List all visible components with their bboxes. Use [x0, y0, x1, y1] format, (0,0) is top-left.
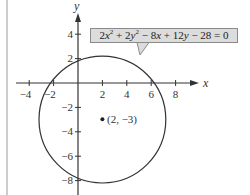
- x-tick-label: 6: [148, 88, 154, 100]
- equation-part: − 8: [139, 29, 156, 41]
- y-tick-labels: 4 2 −2 −4 −6 −8: [61, 28, 73, 186]
- y-tick-label: −8: [61, 174, 73, 186]
- equation-part: + 12: [161, 29, 184, 41]
- center-point: [100, 117, 104, 121]
- y-tick-label: 2: [68, 52, 74, 64]
- callout-tail: [137, 43, 149, 56]
- x-tick-label: 2: [100, 88, 106, 100]
- x-axis-arrow-icon: [190, 80, 199, 86]
- y-tick-label: −4: [61, 125, 73, 137]
- x-tick-labels: −4 −2 2 4 6 8: [20, 88, 179, 100]
- y-axis-label: y: [73, 0, 80, 13]
- circle-graph-figure: −4 −2 2 4 6 8 4 2 −2 −4 −6 −8 x y: [0, 0, 250, 195]
- x-tick-label: 8: [173, 88, 179, 100]
- y-tick-label: −6: [61, 150, 73, 162]
- y-axis: [75, 13, 81, 195]
- y-tick-label: 4: [68, 28, 74, 40]
- x-axis: [16, 80, 199, 86]
- y-axis-arrow-icon: [75, 13, 81, 22]
- x-tick-label: 4: [124, 88, 130, 100]
- equation-callout: 2x2 + 2y2 − 8x + 12y − 28 = 0: [90, 28, 238, 43]
- x-axis-label: x: [202, 76, 209, 90]
- equation-part: − 28 = 0: [189, 29, 229, 41]
- x-tick-label: −4: [20, 88, 32, 100]
- center-point-label: (2, −3): [107, 113, 137, 126]
- equation-part: + 2: [113, 29, 130, 41]
- y-tick-label: −2: [61, 101, 73, 113]
